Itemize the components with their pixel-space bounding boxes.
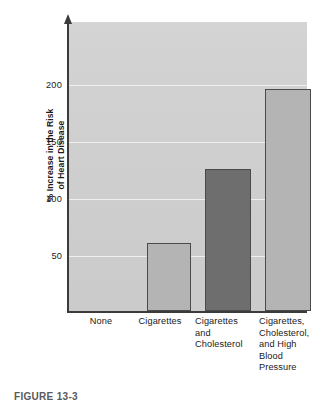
figure-container: % Increase in the Risk of Heart Disease … [0, 0, 325, 401]
y-tick-150: 150 [36, 137, 62, 147]
y-tick-50: 50 [36, 251, 62, 261]
category-label-cigarettes: Cigarettes [127, 316, 193, 328]
figure-caption: FIGURE 13-3 [14, 391, 78, 401]
category-label-cigarettes-cholesterol-blood-pressure: Cigarettes, Cholesterol, and High Blood … [259, 316, 325, 374]
y-axis-tick-labels: 200 150 100 50 [36, 0, 62, 401]
y-tick-200: 200 [36, 80, 62, 90]
bar-cigarettes-and-cholesterol[interactable] [205, 169, 251, 311]
x-axis-line [67, 311, 307, 313]
y-axis-arrow-icon [64, 14, 72, 24]
y-tick-100: 100 [36, 194, 62, 204]
plot-area [69, 22, 307, 311]
category-label-cigarettes-and-cholesterol: Cigarettes and Cholesterol [195, 316, 261, 351]
gridline-200 [69, 85, 307, 86]
x-axis-category-labels: None Cigarettes Cigarettes and Cholester… [69, 316, 319, 401]
bar-cigarettes-cholesterol-blood-pressure[interactable] [265, 89, 311, 311]
category-label-none: None [75, 316, 127, 328]
bar-cigarettes[interactable] [147, 243, 191, 311]
y-axis-line [67, 22, 69, 312]
